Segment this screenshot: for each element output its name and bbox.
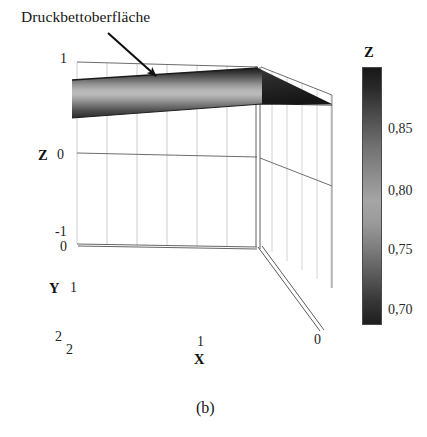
- z-axis-label: Z: [38, 148, 48, 163]
- colorbar-tick-070: 0,70: [388, 303, 413, 317]
- z-tick-label-1: 1: [60, 52, 67, 66]
- annotation-arrow: [108, 33, 156, 76]
- y-axis-label: Y: [49, 281, 59, 296]
- x-axis-label: X: [194, 352, 204, 367]
- surface-mesh: [72, 68, 332, 118]
- z-tick-label-0: 0: [57, 148, 64, 162]
- x-tick-label-2: 2: [66, 343, 73, 357]
- x-tick-label-1: 1: [197, 335, 204, 349]
- colorbar-title: Z: [364, 44, 374, 61]
- colorbar-gradient-strip: [362, 67, 382, 325]
- figure-caption: (b): [196, 399, 215, 417]
- colorbar-tick-080: 0,80: [388, 184, 413, 198]
- y-tick-label-2: 2: [55, 330, 62, 344]
- colorbar-tick-075: 0,75: [388, 243, 413, 257]
- y-tick-label-1: 1: [70, 281, 77, 295]
- figure-panel: Druckbettoberfläche 1 Z 0 -1 0 Y 1 2 2 1…: [0, 0, 427, 437]
- axis-y-line: [258, 246, 324, 331]
- annotation-label: Druckbettoberfläche: [21, 8, 150, 26]
- grid-line-z-mid: [77, 153, 332, 186]
- y-tick-label-0: 0: [60, 240, 67, 254]
- colorbar-tick-085: 0,85: [388, 122, 413, 136]
- z-tick-label-neg1: -1: [55, 225, 67, 239]
- x-tick-label-0: 0: [314, 333, 321, 347]
